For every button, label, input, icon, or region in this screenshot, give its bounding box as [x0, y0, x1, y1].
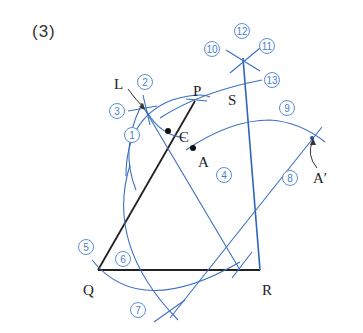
svg-text:12: 12: [236, 26, 248, 37]
label-C: C: [179, 129, 189, 145]
step-marker-7: 7: [131, 303, 146, 318]
segment-RS: [243, 58, 260, 270]
svg-text:11: 11: [262, 41, 273, 52]
step-marker-8: 8: [283, 171, 298, 186]
step-marker-5: 5: [79, 240, 94, 255]
step-marker-4: 4: [217, 168, 232, 183]
arc-step5: [92, 260, 240, 291]
arc-step9: [186, 120, 325, 150]
svg-text:5: 5: [83, 242, 89, 253]
svg-text:1: 1: [129, 130, 135, 141]
svg-text:8: 8: [287, 173, 293, 184]
svg-text:2: 2: [142, 77, 148, 88]
point-C: [165, 128, 171, 134]
step-marker-13: 13: [265, 73, 280, 88]
arc-step1: [129, 108, 140, 190]
arc-step7: [154, 300, 185, 322]
svg-text:13: 13: [266, 75, 278, 86]
label-L: L: [114, 76, 123, 92]
step-marker-6: 6: [116, 252, 131, 267]
label-A-prime: A′: [313, 170, 327, 186]
svg-text:3: 3: [114, 106, 120, 117]
svg-text:6: 6: [120, 254, 126, 265]
step-marker-12: 12: [235, 24, 250, 39]
step-marker-2: 2: [138, 75, 153, 90]
step-marker-1: 1: [125, 128, 140, 143]
arc-step2: [143, 95, 150, 125]
line-step8: [170, 127, 322, 318]
label-R: R: [262, 282, 272, 298]
arc-step6: [124, 165, 178, 320]
svg-text:7: 7: [135, 305, 141, 316]
label-A: A: [198, 154, 209, 170]
step-marker-11: 11: [260, 39, 275, 54]
arc-step11: [230, 48, 260, 73]
svg-text:9: 9: [284, 103, 290, 114]
step-marker-10: 10: [205, 42, 220, 57]
step-marker-3: 3: [110, 104, 125, 119]
svg-text:10: 10: [206, 44, 218, 55]
line-LC-extended: [141, 103, 240, 270]
label-S: S: [228, 92, 236, 108]
label-P: P: [193, 83, 201, 99]
geometric-construction-diagram: L P C A S Q R A′ 1 2 3 4 5 6 7 8 9: [0, 0, 363, 333]
svg-text:4: 4: [221, 170, 227, 181]
step-marker-9: 9: [280, 101, 295, 116]
label-Q: Q: [83, 282, 94, 298]
point-A: [190, 145, 196, 151]
segment-QP: [98, 101, 195, 270]
